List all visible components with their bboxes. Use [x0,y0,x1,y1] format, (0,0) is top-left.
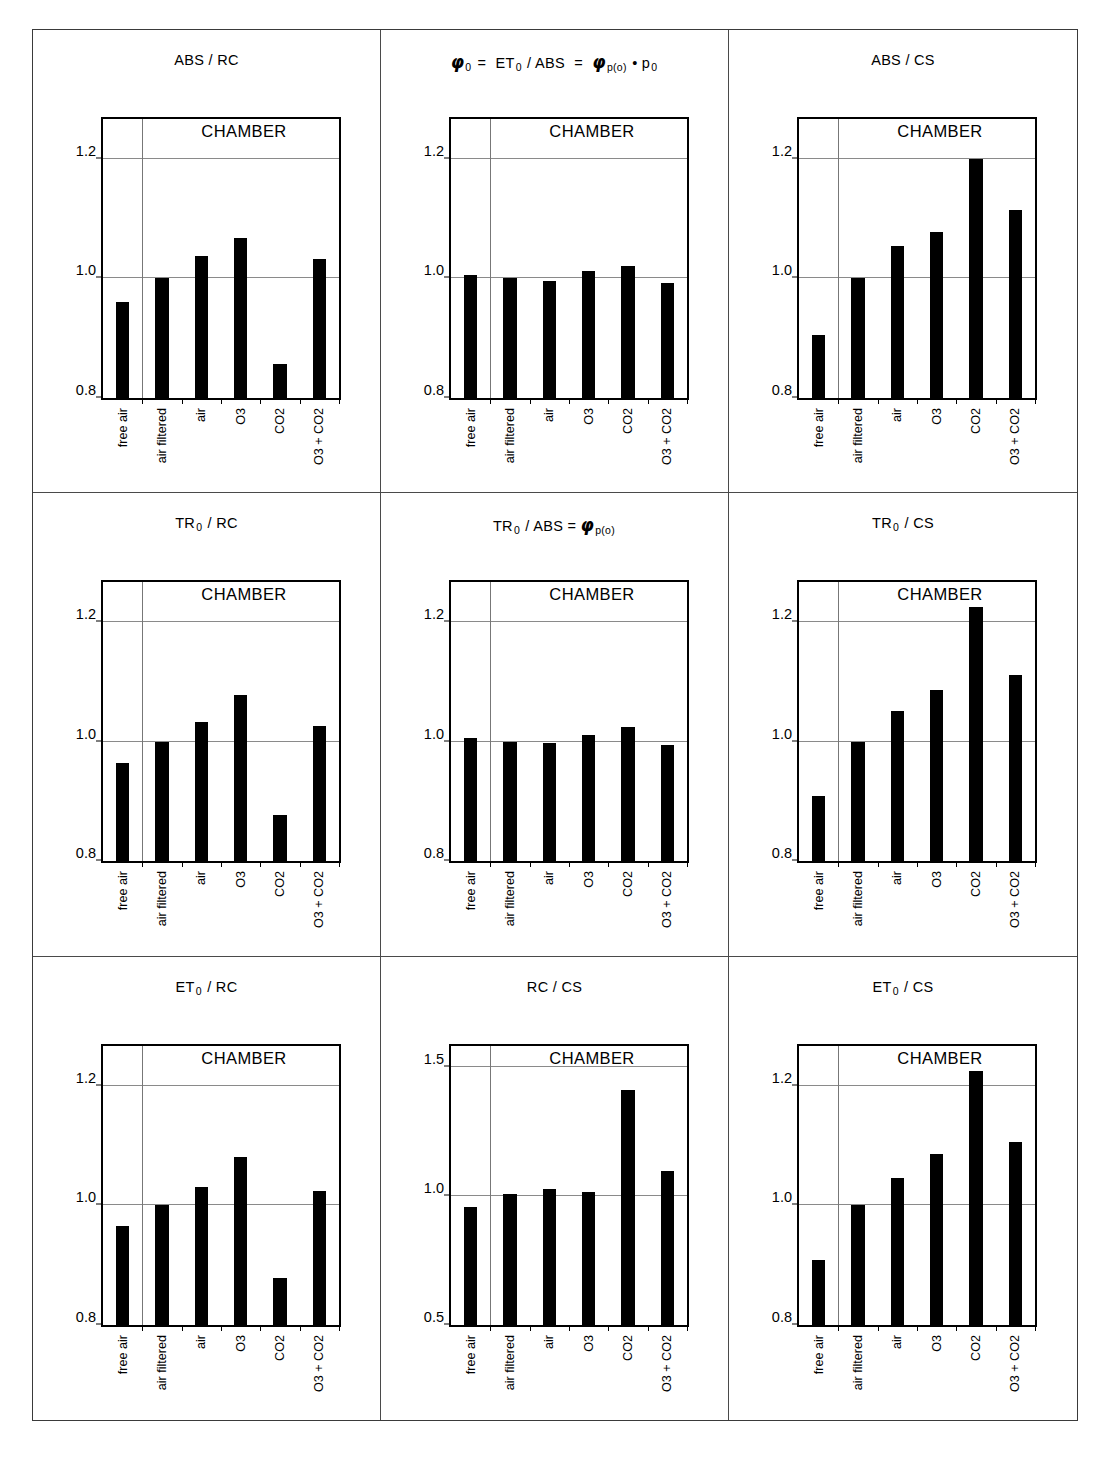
x-label-holder: O3 [232,408,250,425]
y-tick-mark [96,157,103,158]
bar [234,1157,247,1324]
x-tick-mark [221,861,222,867]
bar [313,259,326,398]
bar [273,815,286,862]
bar [543,743,556,861]
x-label-holder: air [888,1335,906,1349]
bar [155,278,168,398]
x-tick-mark [956,861,957,867]
x-axis-category-label: CO2 [273,871,287,897]
bar [313,1191,326,1325]
y-axis-tick-label: 1.2 [772,1070,792,1086]
x-label-holder: air [192,1335,210,1349]
x-tick-mark [996,398,997,404]
x-tick-mark [838,398,839,404]
y-tick-mark [444,277,451,278]
y-tick-mark [444,157,451,158]
bar [464,275,477,398]
x-tick-mark [1035,1325,1036,1331]
x-axis-category-label: O3 [930,871,944,888]
x-tick-mark [687,861,688,867]
y-axis-tick-label: 0.8 [424,845,444,861]
y-tick-mark [792,277,799,278]
bar [582,271,595,398]
plot-area-abs-cs: 0.81.01.2CHAMBERfree airair filteredairO… [729,30,1077,492]
x-tick-mark [838,1325,839,1331]
bar [661,283,674,398]
bar [930,232,943,398]
x-label-holder: CO2 [967,871,985,897]
x-label-holder: free air [114,871,132,910]
bar-series: free airair filteredairO3CO2O3 + CO2 [103,1046,339,1325]
x-tick-mark [569,861,570,867]
x-label-holder: O3 + CO2 [658,1335,676,1392]
x-axis-category-label: air [890,408,904,422]
bar [116,1226,129,1325]
plot-frame-tr0-rc: 0.81.01.2CHAMBERfree airair filteredairO… [101,580,341,863]
x-label-holder: free air [810,408,828,447]
x-label-holder: O3 + CO2 [658,408,676,465]
x-label-holder: air filtered [501,871,519,926]
bar [1009,210,1022,398]
x-tick-mark [648,1325,649,1331]
bar [891,1178,904,1324]
bar [543,281,556,398]
y-tick-mark [444,1323,451,1324]
y-tick-mark [792,397,799,398]
plot-frame-tr0-cs: 0.81.01.2CHAMBERfree airair filteredairO… [797,580,1037,863]
x-label-holder: free air [462,1335,480,1374]
x-tick-mark [996,861,997,867]
x-axis-category-label: CO2 [969,871,983,897]
x-label-holder: O3 [928,1335,946,1352]
x-tick-mark [300,1325,301,1331]
y-tick-mark [444,1066,451,1067]
y-axis-tick-label: 1.0 [76,726,96,742]
x-label-holder: air [888,408,906,422]
x-axis-category-label: O3 + CO2 [660,408,674,465]
chart-panel-et0-rc: ET0 / RC0.81.01.2CHAMBERfree airair filt… [33,957,381,1420]
x-axis-category-label: O3 + CO2 [312,871,326,928]
bar [851,742,864,862]
x-tick-mark [569,398,570,404]
bar [812,796,825,861]
plot-area-phi0: 0.81.01.2CHAMBERfree airair filteredairO… [381,30,728,492]
x-tick-mark [142,398,143,404]
x-label-holder: O3 [580,408,598,425]
bar [116,302,129,398]
bar-series: free airair filteredairO3CO2O3 + CO2 [451,1046,687,1325]
bar [930,1154,943,1325]
bar-series: free airair filteredairO3CO2O3 + CO2 [799,119,1035,398]
x-tick-mark [260,398,261,404]
y-axis-tick-label: 0.5 [424,1309,444,1325]
x-axis-category-label: O3 [582,1335,596,1352]
y-axis-tick-label: 1.2 [772,143,792,159]
chart-panel-rc-cs: RC / CS0.51.01.5CHAMBERfree airair filte… [381,957,729,1420]
bar [195,256,208,398]
bar-series: free airair filteredairO3CO2O3 + CO2 [103,119,339,398]
x-axis-category-label: free air [464,1335,478,1374]
x-tick-mark [956,398,957,404]
plot-frame-phi0: 0.81.01.2CHAMBERfree airair filteredairO… [449,117,689,400]
y-axis-tick-label: 1.5 [424,1051,444,1067]
bar [621,266,634,398]
x-axis-category-label: CO2 [621,408,635,434]
x-tick-mark [687,1325,688,1331]
bar [503,742,516,862]
x-label-holder: O3 [580,871,598,888]
x-tick-mark [300,861,301,867]
x-axis-category-label: air filtered [155,871,169,926]
x-label-holder: CO2 [967,1335,985,1361]
plot-frame-rc-cs: 0.51.01.5CHAMBERfree airair filteredairO… [449,1044,689,1327]
bar [969,159,982,398]
x-axis-category-label: free air [812,871,826,910]
x-tick-mark [260,1325,261,1331]
x-axis-category-label: air [542,871,556,885]
x-axis-category-label: O3 + CO2 [1008,871,1022,928]
y-tick-mark [792,621,799,622]
x-axis-category-label: O3 [582,408,596,425]
y-axis-tick-label: 1.0 [772,262,792,278]
plot-frame-tr0-abs: 0.81.01.2CHAMBERfree airair filteredairO… [449,580,689,863]
plot-area-et0-rc: 0.81.01.2CHAMBERfree airair filteredairO… [33,957,380,1420]
y-axis-tick-label: 1.2 [76,1070,96,1086]
x-label-holder: free air [810,1335,828,1374]
